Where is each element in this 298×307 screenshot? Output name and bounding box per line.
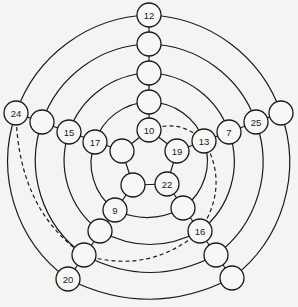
graph-nodes: 121024151725713192292016: [4, 3, 293, 291]
node-9: 9: [103, 198, 127, 222]
node-label: 10: [144, 125, 155, 136]
node-circle: [121, 173, 145, 197]
node-empty: [171, 196, 195, 220]
edge: [68, 278, 232, 299]
node-20: 20: [56, 267, 80, 291]
node-label: 12: [144, 10, 155, 21]
node-empty: [72, 243, 96, 267]
edge: [42, 44, 149, 122]
solid-edges: [8, 15, 290, 299]
node-circle: [88, 219, 112, 243]
node-label: 16: [195, 226, 206, 237]
node-circle: [110, 139, 134, 163]
node-label: 15: [64, 127, 75, 138]
node-empty: [137, 61, 161, 85]
node-label: 20: [63, 274, 74, 285]
node-circle: [269, 101, 293, 125]
node-label: 9: [112, 205, 117, 216]
node-empty: [204, 243, 228, 267]
node-empty: [220, 266, 244, 290]
node-empty: [88, 219, 112, 243]
node-circle: [171, 196, 195, 220]
node-label: 25: [251, 117, 262, 128]
node-circle: [220, 266, 244, 290]
node-empty: [30, 110, 54, 134]
node-circle: [137, 61, 161, 85]
node-22: 22: [155, 172, 179, 196]
node-empty: [269, 101, 293, 125]
node-empty: [110, 139, 134, 163]
node-7: 7: [217, 120, 241, 144]
node-13: 13: [192, 129, 216, 153]
node-circle: [204, 243, 228, 267]
node-label: 13: [199, 136, 210, 147]
node-15: 15: [57, 120, 81, 144]
node-label: 7: [226, 127, 231, 138]
node-label: 19: [172, 146, 183, 157]
edge: [16, 15, 149, 113]
node-label: 22: [162, 179, 173, 190]
node-empty: [137, 32, 161, 56]
dashed-edges: [16, 113, 216, 261]
node-circle: [72, 243, 96, 267]
node-12: 12: [137, 3, 161, 27]
node-25: 25: [244, 110, 268, 134]
node-16: 16: [188, 219, 212, 243]
node-empty: [137, 90, 161, 114]
edge: [149, 44, 256, 122]
graph-diagram: 121024151725713192292016: [0, 0, 298, 307]
node-24: 24: [4, 101, 28, 125]
node-circle: [137, 32, 161, 56]
node-empty: [121, 173, 145, 197]
node-label: 24: [11, 108, 22, 119]
node-10: 10: [137, 118, 161, 142]
node-19: 19: [165, 139, 189, 163]
node-label: 17: [90, 137, 101, 148]
node-17: 17: [83, 130, 107, 154]
edge: [149, 15, 281, 113]
node-circle: [137, 90, 161, 114]
node-circle: [30, 110, 54, 134]
